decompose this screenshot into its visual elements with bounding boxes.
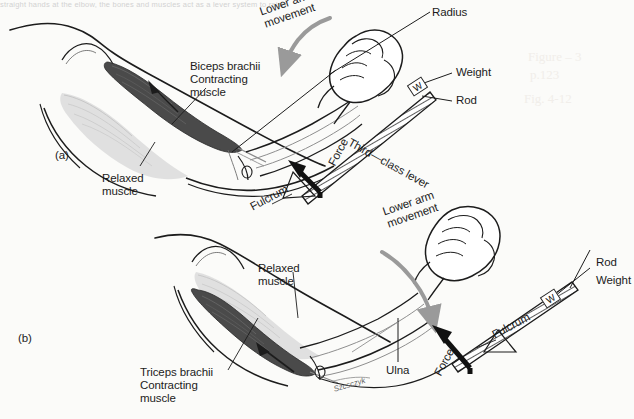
panel-b-artwork — [155, 207, 590, 388]
hand-b — [414, 207, 500, 300]
movement-arrow-a — [286, 18, 330, 62]
panel-a-relaxed-muscle-label: Relaxed muscle — [102, 172, 144, 198]
panel-a-weight-label: Weight — [456, 66, 491, 79]
pencil-annotation-line3: Fig. 4-12 — [524, 90, 572, 107]
pencil-annotation-line1: Figure – 3 — [528, 48, 581, 65]
panel-b-relaxed-muscle-label: Relaxed muscle — [258, 262, 300, 288]
panel-b-triceps-label: Triceps brachii Contracting muscle — [140, 366, 213, 405]
panel-a-biceps-label: Biceps brachii Contracting muscle — [190, 60, 260, 99]
panel-b-weight-label: Weight — [596, 274, 631, 287]
panel-b-rod-label: Rod — [596, 256, 617, 269]
figure-root: straight hands at the elbow, the bones a… — [0, 0, 634, 419]
panel-a-radius-label: Radius — [432, 6, 467, 19]
pencil-annotation-line2: p.123 — [530, 66, 559, 83]
panel-a-id: (a) — [55, 149, 69, 162]
movement-arrow-b — [382, 252, 432, 318]
hand-a — [318, 30, 403, 124]
panel-b-ulna-label: Ulna — [386, 364, 409, 377]
panel-a-rod-label: Rod — [456, 94, 477, 107]
panel-b-id: (b) — [18, 332, 32, 345]
